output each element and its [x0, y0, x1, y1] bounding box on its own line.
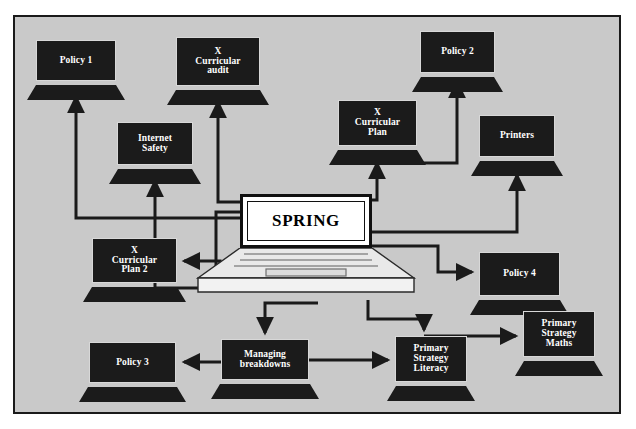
node-x-curricular-audit-label: XCurricularaudit	[193, 47, 242, 77]
node-policy-3-label: Policy 3	[114, 358, 151, 368]
node-x-curricular-plan-label: XCurricularPlan	[353, 108, 402, 138]
node-x-curricular-plan-2-base	[83, 284, 186, 302]
spring-hub-body	[192, 248, 420, 303]
node-policy-1-label: Policy 1	[58, 56, 95, 66]
node-x-curricular-plan-screen: XCurricularPlan	[338, 100, 417, 146]
node-policy-2-label: Policy 2	[439, 47, 476, 57]
node-primary-strategy-maths-screen: PrimaryStrategyMaths	[523, 311, 595, 357]
spring-hub-label: SPRING	[272, 211, 340, 231]
node-x-curricular-plan-base	[329, 147, 426, 165]
node-x-curricular-plan-2-screen: XCurricularPlan 2	[92, 238, 177, 283]
node-primary-strategy-literacy-screen: PrimaryStrategyLiteracy	[395, 336, 467, 382]
node-x-curricular-audit-screen: XCurricularaudit	[176, 37, 260, 86]
node-primary-strategy-maths-label: PrimaryStrategyMaths	[539, 319, 578, 349]
node-policy-4[interactable]: Policy 4	[479, 252, 560, 312]
spring-hub-trackpad	[266, 269, 346, 276]
node-managing-breakdowns-base	[211, 381, 319, 399]
node-printers-base	[471, 158, 563, 176]
node-policy-2[interactable]: Policy 2	[420, 31, 495, 89]
node-x-curricular-audit[interactable]: XCurricularaudit	[176, 37, 260, 102]
spring-hub-screen: SPRING	[240, 194, 372, 248]
node-policy-3[interactable]: Policy 3	[89, 342, 176, 399]
node-internet-safety-screen: InternetSafety	[117, 122, 193, 165]
node-policy-4-label: Policy 4	[501, 269, 538, 279]
node-policy-3-base	[79, 384, 186, 402]
node-managing-breakdowns-screen: Managingbreakdowns	[221, 339, 309, 380]
node-internet-safety-base	[109, 166, 201, 184]
node-managing-breakdowns-label: Managingbreakdowns	[238, 350, 292, 370]
node-policy-3-screen: Policy 3	[89, 342, 176, 383]
node-primary-strategy-literacy-base	[387, 383, 475, 401]
node-primary-strategy-literacy[interactable]: PrimaryStrategyLiteracy	[395, 336, 467, 398]
node-internet-safety-label: InternetSafety	[136, 134, 174, 154]
node-internet-safety[interactable]: InternetSafety	[117, 122, 193, 181]
node-primary-strategy-maths-base	[515, 358, 603, 376]
node-printers[interactable]: Printers	[479, 115, 555, 173]
node-printers-screen: Printers	[479, 115, 555, 157]
node-policy-1-base	[27, 82, 125, 100]
node-primary-strategy-literacy-label: PrimaryStrategyLiteracy	[411, 344, 450, 374]
node-policy-1-screen: Policy 1	[36, 40, 116, 81]
diagram-canvas: Policy 1XCurricularauditPolicy 2Internet…	[0, 0, 636, 429]
node-policy-4-screen: Policy 4	[479, 252, 560, 296]
node-policy-2-screen: Policy 2	[420, 31, 495, 73]
node-policy-1[interactable]: Policy 1	[36, 40, 116, 97]
node-policy-2-base	[412, 74, 503, 92]
node-x-curricular-audit-base	[167, 87, 269, 105]
node-x-curricular-plan-2[interactable]: XCurricularPlan 2	[92, 238, 177, 299]
node-managing-breakdowns[interactable]: Managingbreakdowns	[221, 339, 309, 396]
node-printers-label: Printers	[498, 131, 536, 141]
spring-hub-screen-inner: SPRING	[247, 201, 365, 241]
node-x-curricular-plan-2-label: XCurricularPlan 2	[110, 246, 159, 276]
spring-hub-front	[198, 278, 414, 292]
node-primary-strategy-maths[interactable]: PrimaryStrategyMaths	[523, 311, 595, 373]
node-x-curricular-plan[interactable]: XCurricularPlan	[338, 100, 417, 162]
